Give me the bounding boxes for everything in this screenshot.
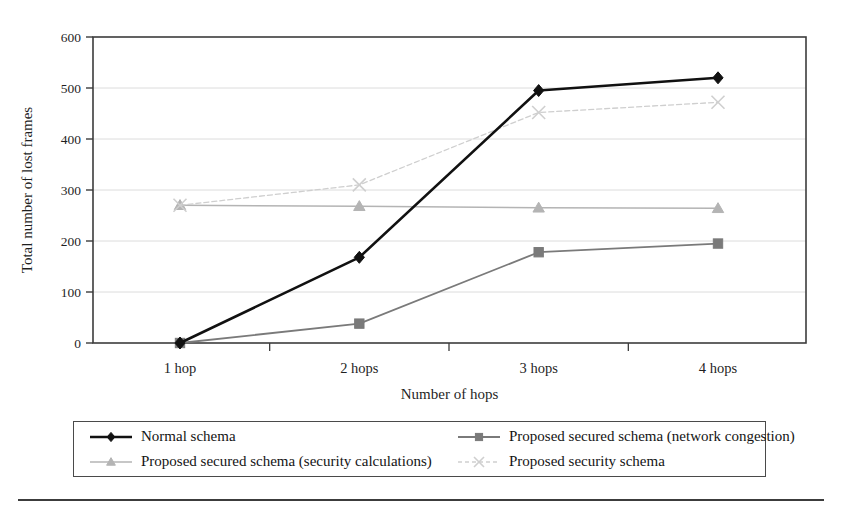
- y-tick-label: 0: [74, 336, 81, 351]
- legend-item[interactable]: Proposed security schema: [456, 454, 781, 469]
- legend-label: Proposed security schema: [509, 454, 665, 469]
- x-tick-label: 2 hops: [340, 360, 379, 376]
- y-tick-label: 400: [61, 132, 82, 147]
- data-point-marker: [713, 72, 723, 84]
- y-tick-label: 200: [61, 234, 82, 249]
- legend-marker-diamond-icon: [88, 430, 134, 444]
- data-point-marker: [355, 319, 364, 328]
- legend-item[interactable]: Proposed secured schema (security calcul…: [88, 454, 456, 469]
- chart-plot-area: 01002003004005006001 hop2 hops3 hops4 ho…: [0, 0, 841, 410]
- legend-item[interactable]: Proposed secured schema (network congest…: [456, 429, 781, 444]
- y-tick-label: 600: [61, 30, 82, 45]
- data-point-marker: [534, 248, 543, 257]
- legend-marker-square-icon: [456, 430, 502, 444]
- figure-root: 01002003004005006001 hop2 hops3 hops4 ho…: [0, 0, 841, 508]
- chart-series: [175, 239, 722, 348]
- x-axis: 1 hop2 hops3 hops4 hops: [164, 343, 738, 376]
- legend-item[interactable]: Normal schema: [88, 429, 456, 444]
- y-tick-label: 300: [61, 183, 82, 198]
- legend-label: Proposed secured schema (security calcul…: [141, 454, 432, 469]
- x-tick-label: 4 hops: [699, 360, 738, 376]
- legend-marker-x-icon: [456, 455, 502, 469]
- chart-series: [174, 96, 725, 212]
- legend-label: Normal schema: [141, 429, 236, 444]
- y-tick-label: 100: [61, 285, 82, 300]
- chart-series: [175, 72, 723, 349]
- y-tick-label: 500: [61, 81, 82, 96]
- line-chart: 01002003004005006001 hop2 hops3 hops4 ho…: [0, 0, 841, 410]
- data-point-marker: [713, 239, 722, 248]
- y-axis-title: Total number of lost frames: [19, 107, 35, 274]
- x-axis-title: Number of hops: [401, 386, 499, 402]
- x-tick-label: 1 hop: [164, 360, 197, 376]
- page-bottom-rule: [18, 499, 824, 501]
- gridlines: [93, 88, 806, 292]
- chart-series: [174, 200, 723, 213]
- chart-legend: Normal schemaProposed secured schema (ne…: [73, 421, 766, 477]
- legend-marker-triangle-icon: [88, 455, 134, 469]
- legend-label: Proposed secured schema (network congest…: [509, 429, 795, 444]
- y-axis: 0100200300400500600: [61, 30, 93, 351]
- x-tick-label: 3 hops: [520, 360, 559, 376]
